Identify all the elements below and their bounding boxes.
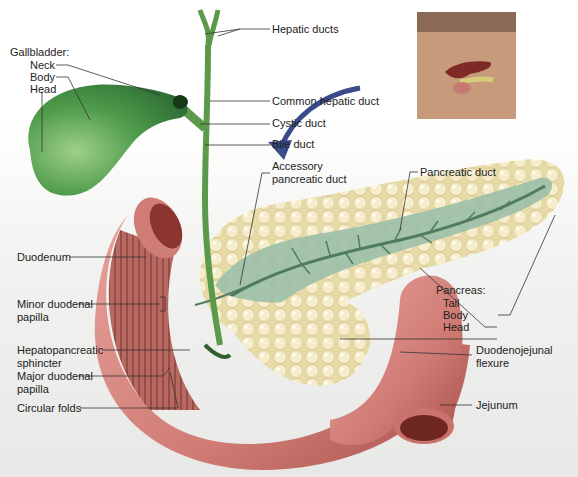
label-circular-folds: Circular folds bbox=[17, 402, 81, 415]
label-major-duodenal-papilla-2: papilla bbox=[17, 383, 49, 396]
label-accessory-pancreatic-duct-2: pancreatic duct bbox=[272, 173, 347, 186]
label-cystic-duct: Cystic duct bbox=[272, 117, 326, 130]
label-gallbladder: Gallbladder: bbox=[10, 46, 69, 59]
label-common-hepatic-duct: Common hepatic duct bbox=[272, 95, 379, 108]
torso-locator-inset bbox=[417, 12, 516, 119]
label-pancreas: Pancreas: bbox=[436, 284, 486, 297]
label-duodenojejunal-flexure-1: Duodenojejunal bbox=[476, 344, 552, 357]
label-duodenojejunal-flexure-2: flexure bbox=[476, 357, 509, 370]
label-hepatic-ducts: Hepatic ducts bbox=[272, 23, 339, 36]
label-duodenum: Duodenum bbox=[17, 251, 71, 264]
anatomy-diagram: Gallbladder: Neck Body Head Hepatic duct… bbox=[0, 0, 578, 477]
label-major-duodenal-papilla-1: Major duodenal bbox=[17, 370, 93, 383]
label-hepatopancreatic-sphincter-1: Hepatopancreatic bbox=[17, 344, 103, 357]
label-pancreas-head: Head bbox=[443, 321, 469, 334]
label-minor-duodenal-papilla-2: papilla bbox=[17, 311, 49, 324]
label-pancreatic-duct: Pancreatic duct bbox=[420, 166, 496, 179]
label-bile-duct: Bile duct bbox=[272, 138, 314, 151]
label-hepatopancreatic-sphincter-2: sphincter bbox=[17, 357, 62, 370]
label-gallbladder-head: Head bbox=[30, 83, 56, 96]
label-minor-duodenal-papilla-1: Minor duodenal bbox=[17, 298, 93, 311]
label-jejunum: Jejunum bbox=[476, 399, 518, 412]
label-accessory-pancreatic-duct-1: Accessory bbox=[272, 160, 323, 173]
